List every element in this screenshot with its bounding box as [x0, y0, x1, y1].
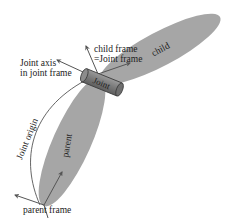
joint-axis-frame-label: in joint frame — [20, 68, 72, 78]
joint-axis-label: Joint axis — [20, 58, 56, 68]
child-frame-label: child frame — [94, 44, 138, 54]
parent-frame-label: parent frame — [23, 205, 71, 215]
diagram-canvas: Joint child frame =Joint frame child Joi… — [0, 0, 232, 223]
joint-frame-label: =Joint frame — [94, 54, 142, 64]
joint-diagram: Joint child frame =Joint frame child Joi… — [0, 0, 232, 223]
joint-origin-label: Joint origin — [14, 117, 40, 161]
